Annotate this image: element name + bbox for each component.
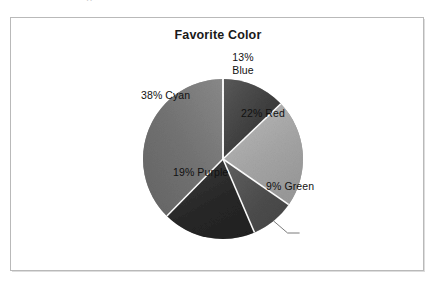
pie-chart-svg	[11, 18, 425, 272]
green-label-leader-line	[274, 221, 300, 233]
pie-chart-plot-area: 13% Blue 22% Red 9% Green 19% Purple 38%…	[11, 18, 425, 272]
pie-label-blue-name: Blue	[220, 64, 266, 77]
pie-label-purple: 19% Purple	[173, 166, 228, 179]
chart-frame: Favorite Color	[10, 17, 424, 271]
pie-label-blue-percent: 13%	[220, 51, 266, 64]
pie-label-red: 22% Red	[241, 107, 285, 120]
pie-label-green: 9% Green	[266, 180, 314, 193]
clipped-text-above-frame: ..	[0, 0, 439, 9]
clipped-text: ..	[86, 0, 93, 3]
pie-label-blue: 13% Blue	[220, 51, 266, 76]
pie-label-cyan: 38% Cyan	[141, 89, 190, 102]
